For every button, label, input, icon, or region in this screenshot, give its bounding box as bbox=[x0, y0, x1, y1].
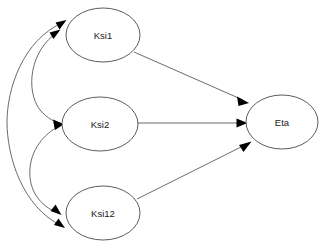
edge-ksi12-to-eta bbox=[137, 142, 252, 200]
edge-ksi12-to-eta-arrowhead bbox=[239, 142, 252, 153]
node-ksi12-ellipse[interactable] bbox=[66, 186, 140, 240]
edge-ksi1-ksi2-covariance bbox=[32, 30, 64, 128]
path-diagram-canvas: Ksi1 Ksi2 Ksi12 Eta bbox=[0, 0, 324, 246]
edge-ksi1-to-eta-line bbox=[134, 52, 243, 100]
edge-ksi2-ksi12-covariance-line bbox=[30, 126, 60, 213]
node-eta-ellipse[interactable] bbox=[246, 95, 318, 149]
edge-ksi2-ksi12-covariance-arrowhead-bottom bbox=[51, 205, 62, 216]
node-ksi12[interactable]: Ksi12 bbox=[66, 186, 140, 240]
node-ksi2[interactable]: Ksi2 bbox=[62, 97, 138, 151]
edge-ksi2-to-eta bbox=[138, 119, 248, 128]
edge-ksi1-ksi2-covariance-line bbox=[32, 32, 60, 123]
edge-ksi2-ksi12-covariance bbox=[30, 122, 64, 215]
edge-ksi1-ksi12-covariance-arrowhead-top bbox=[56, 20, 67, 30]
edge-ksi1-to-eta-arrowhead bbox=[237, 97, 249, 107]
node-ksi2-ellipse[interactable] bbox=[62, 97, 138, 151]
edge-ksi1-to-eta bbox=[134, 52, 249, 106]
edge-ksi1-ksi12-covariance-arrowhead-bottom bbox=[54, 219, 65, 229]
node-ksi1[interactable]: Ksi1 bbox=[66, 8, 140, 62]
node-ksi1-ellipse[interactable] bbox=[66, 8, 140, 62]
path-diagram-svg: Ksi1 Ksi2 Ksi12 Eta bbox=[0, 0, 324, 246]
node-eta[interactable]: Eta bbox=[246, 95, 318, 149]
edge-ksi12-to-eta-line bbox=[137, 145, 245, 199]
